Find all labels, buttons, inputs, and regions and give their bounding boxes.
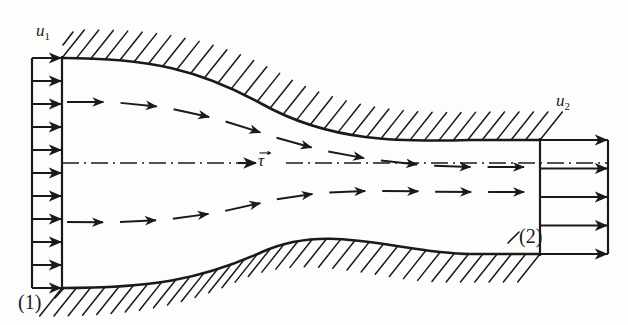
hatch-line [489, 254, 511, 282]
bottom-wall-hatching [40, 239, 540, 316]
label-u1-symbol: u [36, 21, 45, 40]
hatch-line [218, 55, 240, 83]
hatch-line [475, 254, 497, 282]
section-leader-ticks [55, 32, 519, 298]
upper-streamline-segment [226, 122, 261, 133]
lower-streamline-segment [120, 220, 156, 222]
lower-streamline-segment [173, 214, 209, 219]
hatch-line [310, 97, 332, 125]
hatch-line [461, 254, 483, 282]
hatch-line [270, 80, 292, 108]
hatch-line [125, 284, 147, 312]
label-u2: u2 [556, 92, 570, 112]
figure-root: u1 u2 (1) (2) τ [0, 0, 628, 325]
hatch-line [468, 112, 490, 140]
label-u1-subscript: 1 [45, 30, 51, 42]
upper-streamline-segment [174, 109, 210, 117]
upper-streamline-segment [121, 103, 157, 107]
hatch-line [511, 112, 533, 140]
hatch-line [83, 287, 105, 315]
top-wall-curve [62, 58, 540, 141]
outlet-arrow-group [540, 140, 607, 254]
hatch-line [68, 288, 90, 316]
label-u2-symbol: u [556, 91, 565, 110]
label-tau-vector: τ [258, 152, 264, 169]
hatch-line [290, 239, 312, 267]
hatch-line [40, 288, 62, 316]
label-section-one: (1) [18, 292, 41, 312]
label-u2-subscript: 2 [565, 100, 571, 112]
upper-streamline-segment [277, 138, 312, 148]
hatch-line [139, 282, 161, 310]
hatch-line [283, 86, 305, 114]
inlet-arrow-group [32, 58, 61, 288]
hatch-line [257, 73, 279, 101]
top-wall-hatching [62, 30, 562, 141]
outlet-velocity-profile [540, 138, 608, 256]
hatch-line [540, 112, 562, 140]
upper-streamline-segment [434, 166, 470, 167]
hatch-line [304, 239, 326, 267]
label-u1: u1 [36, 22, 50, 42]
hatch-line [62, 30, 84, 58]
hatch-line [503, 254, 525, 282]
hatch-line [244, 67, 266, 95]
inlet-velocity-profile [32, 56, 62, 290]
hatch-line [518, 254, 540, 282]
hatch-line [97, 286, 119, 314]
hatch-line [177, 41, 199, 69]
upper-streamline-segment [328, 151, 364, 158]
lower-streamline-segment [277, 194, 313, 199]
u1-leader [63, 32, 73, 45]
lower-streamline-segment [225, 203, 260, 211]
bottom-wall-curve [62, 239, 540, 288]
hatch-line [324, 101, 346, 129]
hatch-line [439, 113, 461, 141]
section-one-leader [55, 288, 64, 298]
stream-tube-diagram [0, 0, 628, 325]
hatch-line [205, 50, 227, 78]
hatch-line [526, 112, 548, 140]
hatch-line [111, 285, 133, 313]
hatch-line [482, 112, 504, 140]
hatch-line [191, 45, 213, 73]
hatch-line [54, 288, 76, 316]
hatch-line [296, 92, 318, 120]
label-section-two: (2) [519, 226, 542, 246]
hatch-line [231, 61, 253, 89]
lower-streamline-segment [329, 191, 365, 192]
hatch-line [497, 112, 519, 140]
vector-arrow-overbar-icon [259, 149, 272, 156]
hatch-line [453, 112, 475, 140]
section-two-leader [508, 232, 519, 243]
